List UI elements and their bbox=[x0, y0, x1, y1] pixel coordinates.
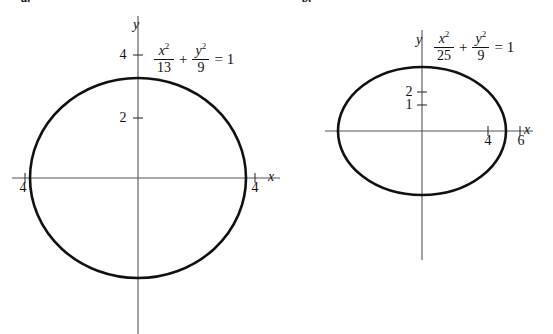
panel-b: b. y x 4 6 2 1 x2 25 + bbox=[285, 0, 553, 334]
y-tick-label-4-a: 4 bbox=[116, 48, 130, 62]
panel-a: a. y x 4 4 4 2 x2 13 + bbox=[0, 0, 285, 334]
equation-equals-one-a: = 1 bbox=[214, 51, 234, 68]
x-tick-label-4-b: 4 bbox=[481, 134, 495, 148]
x-tick-label-6-b: 6 bbox=[514, 134, 528, 148]
numerator-exponent-2b: 2 bbox=[202, 41, 207, 51]
y-tick-label-2-a: 2 bbox=[116, 111, 130, 125]
y-axis-label-b: y bbox=[416, 33, 422, 47]
equation-b: x2 25 + y2 9 = 1 bbox=[433, 32, 514, 63]
fraction-numerator-y2: y2 bbox=[193, 44, 210, 59]
equation-equals-one-b: = 1 bbox=[494, 39, 514, 56]
numerator-exponent-2-b: 2 bbox=[445, 29, 450, 39]
fraction-denominator-9-b: 9 bbox=[474, 48, 487, 63]
x-axis-label-a: x bbox=[268, 170, 274, 184]
fraction-x-over-25: x2 25 bbox=[434, 32, 454, 63]
fraction-y-over-9: y2 9 bbox=[192, 44, 209, 75]
y-tick-label-1-b: 1 bbox=[402, 98, 416, 112]
fraction-numerator-x2: x2 bbox=[156, 44, 173, 59]
x-tick-label-neg4-a: 4 bbox=[16, 181, 30, 195]
fraction-denominator-25: 25 bbox=[434, 48, 454, 63]
equation-a: x2 13 + y2 9 = 1 bbox=[153, 44, 234, 75]
numerator-exponent-2-b2: 2 bbox=[482, 29, 487, 39]
x-tick-label-4-a: 4 bbox=[248, 181, 262, 195]
numerator-exponent-2: 2 bbox=[165, 41, 170, 51]
graph-a-canvas bbox=[0, 0, 285, 334]
y-axis-label-a: y bbox=[133, 18, 139, 32]
ellipse-figure-pair: a. y x 4 4 4 2 x2 13 + bbox=[0, 0, 553, 334]
fraction-denominator-9: 9 bbox=[194, 60, 207, 75]
fraction-y-over-9-b: y2 9 bbox=[472, 32, 489, 63]
fraction-numerator-y2-b: y2 bbox=[473, 32, 490, 47]
fraction-numerator-x2-b: x2 bbox=[436, 32, 453, 47]
equation-operator-plus-a: + bbox=[179, 51, 187, 68]
equation-operator-plus-b: + bbox=[459, 39, 467, 56]
fraction-x-over-13: x2 13 bbox=[154, 44, 174, 75]
fraction-denominator-13: 13 bbox=[154, 60, 174, 75]
